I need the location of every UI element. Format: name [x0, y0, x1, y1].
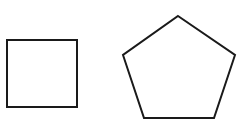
pentagon-shape: [123, 16, 235, 118]
square-shape: [7, 40, 77, 107]
diagram-canvas: [0, 0, 246, 136]
